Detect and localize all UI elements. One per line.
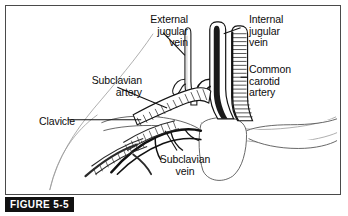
label-internal-jugular-vein: Internal jugular vein	[249, 14, 329, 49]
illustration-frame: External jugular vein Internal jugular v…	[5, 5, 341, 195]
label-external-jugular-vein: External jugular vein	[102, 14, 188, 49]
label-subclavian-artery: Subclavian artery	[46, 75, 142, 98]
figure-caption-bar: FIGURE 5-5	[5, 197, 74, 212]
figure-caption-text: FIGURE 5-5	[10, 197, 69, 212]
internal-jugular-vein-vessel	[196, 22, 234, 119]
label-clavicle: Clavicle	[15, 116, 75, 128]
figure-container: External jugular vein Internal jugular v…	[0, 0, 348, 216]
label-common-carotid-artery: Common carotid artery	[249, 64, 329, 99]
label-subclavian-vein: Subclavian vein	[141, 154, 229, 177]
